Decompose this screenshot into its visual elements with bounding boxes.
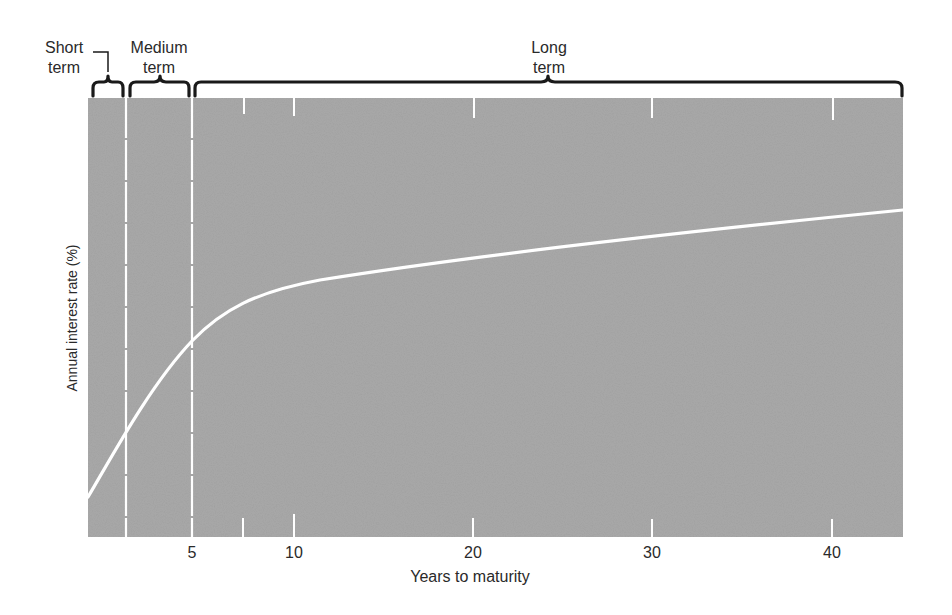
long-term-brace [195,76,902,96]
x-tick-5: 5 [188,544,197,561]
long-term-label-1: Long [531,39,567,56]
short-term-label-2: term [48,59,80,76]
medium-term-label-2: term [143,59,175,76]
y-axis-title: Annual interest rate (%) [64,244,80,391]
x-axis-title: Years to maturity [410,568,529,585]
short-term-label-1: Short [45,39,84,56]
short-term-brace [93,76,123,96]
x-tick-30: 30 [643,544,661,561]
plot-area [88,98,903,537]
yield-curve-chart: Short term Medium term Long term 5 10 20… [0,0,952,615]
region-braces [93,76,902,96]
x-tick-20: 20 [464,544,482,561]
long-term-label-2: term [533,59,565,76]
x-tick-40: 40 [823,544,841,561]
short-term-pointer [93,52,108,72]
medium-term-brace [130,76,189,96]
medium-term-label-1: Medium [131,39,188,56]
x-tick-10: 10 [285,544,303,561]
